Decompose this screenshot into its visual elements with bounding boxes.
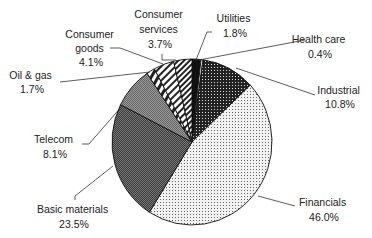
label-oil-gas: Oil & gas 1.7% — [9, 69, 55, 95]
leader-utilities — [196, 32, 212, 60]
label-telecom: Telecom 8.1% — [34, 133, 76, 160]
pie-slices — [112, 59, 272, 225]
label-health-care: Health care 0.4% — [292, 33, 349, 60]
label-basic-materials: Basic materials 23.5% — [37, 203, 111, 230]
leader-consumer-goods — [110, 48, 163, 64]
label-consumer-goods: Consumer goods 4.1% — [65, 28, 116, 68]
leader-oil-gas — [60, 72, 150, 82]
pie-chart: Consumer services 3.7% Consumer goods 4.… — [0, 0, 372, 238]
leader-basic-materials — [75, 166, 113, 200]
label-utilities: Utilities 1.8% — [217, 12, 254, 39]
leader-health-care — [199, 40, 305, 60]
label-industrial: Industrial 10.8% — [317, 84, 363, 110]
leader-financials — [258, 196, 295, 206]
label-financials: Financials 46.0% — [299, 196, 349, 223]
label-consumer-services: Consumer services 3.7% — [134, 8, 185, 50]
leader-consumer-services — [162, 54, 176, 60]
